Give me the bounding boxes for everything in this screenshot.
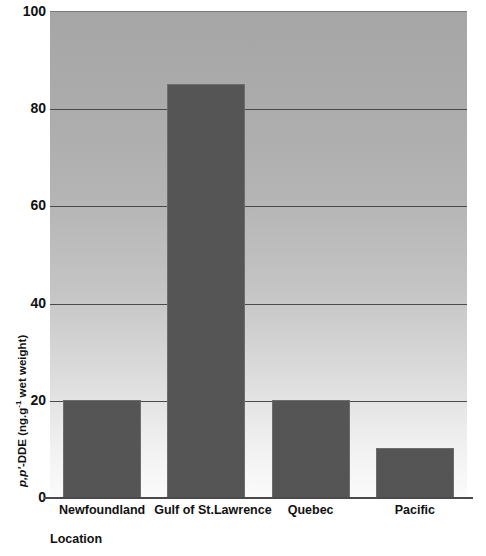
y-axis-title-exponent: -1 bbox=[14, 401, 23, 408]
x-axis-tick-labels: NewfoundlandGulf of St.LawrenceQuebecPac… bbox=[50, 502, 467, 522]
bar-gulf-of-st-lawrence bbox=[167, 84, 245, 497]
x-tick-label-gulf-of-st-lawrence: Gulf of St.Lawrence bbox=[154, 502, 258, 518]
plot-area bbox=[50, 11, 467, 497]
gridline-40 bbox=[50, 304, 467, 305]
x-axis-title: Location bbox=[50, 532, 102, 546]
y-axis-title-rest: -DDE (ng.g bbox=[16, 408, 28, 467]
gridline-80 bbox=[50, 109, 467, 110]
chart-title-cropped bbox=[0, 0, 486, 9]
bar-chart-figure: 020406080100 p,p'-DDE (ng.g-1 wet weight… bbox=[0, 0, 486, 556]
y-axis-title-italic-prefix: p,p' bbox=[16, 467, 28, 487]
gridline-60 bbox=[50, 206, 467, 207]
x-tick-label-pacific: Pacific bbox=[363, 502, 467, 518]
y-tick-label-80: 80 bbox=[2, 101, 46, 115]
y-axis-title: p,p'-DDE (ng.g-1 wet weight) bbox=[14, 326, 28, 496]
x-tick-label-newfoundland: Newfoundland bbox=[50, 502, 154, 518]
x-tick-label-quebec: Quebec bbox=[259, 502, 363, 518]
y-tick-label-60: 60 bbox=[2, 198, 46, 212]
bar-newfoundland bbox=[63, 400, 141, 497]
x-axis-line bbox=[44, 497, 473, 499]
bar-pacific bbox=[376, 448, 454, 497]
bar-quebec bbox=[272, 400, 350, 497]
y-tick-label-100: 100 bbox=[2, 4, 46, 18]
y-axis-title-tail: wet weight) bbox=[16, 335, 28, 401]
y-tick-label-40: 40 bbox=[2, 296, 46, 310]
